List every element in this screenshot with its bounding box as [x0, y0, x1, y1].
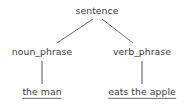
edge-sentence-to-noun-phrase — [57, 19, 93, 43]
tree-node-noun-phrase: noun_phrase — [12, 47, 72, 56]
tree-node-verb-phrase: verb_phrase — [113, 47, 171, 56]
tree-leaf-the-man: the man — [22, 87, 61, 99]
syntax-tree-figure: sentence noun_phrase verb_phrase the man… — [0, 0, 194, 107]
edge-sentence-to-verb-phrase — [102, 19, 133, 43]
tree-node-sentence: sentence — [76, 6, 119, 15]
tree-leaf-eats-the-apple: eats the apple — [108, 87, 176, 99]
